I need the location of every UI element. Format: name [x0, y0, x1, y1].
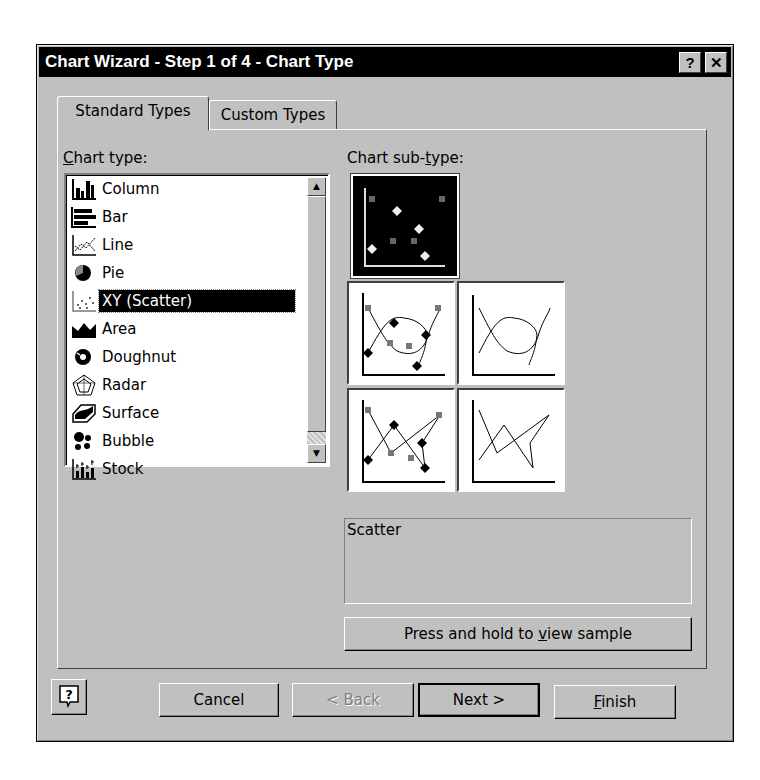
list-item-area[interactable]: Area [69, 315, 303, 343]
doughnut-chart-icon [69, 345, 99, 369]
list-item-bar[interactable]: Bar [69, 203, 303, 231]
scroll-down-button[interactable]: ▼ [307, 444, 326, 463]
list-item-column[interactable]: Column [69, 175, 303, 203]
tab-label: Custom Types [221, 106, 326, 124]
next-button[interactable]: Next > [418, 683, 540, 717]
bar-chart-icon [69, 205, 99, 229]
lines-icon [459, 390, 563, 490]
list-item-bubble[interactable]: Bubble [69, 427, 303, 455]
stock-chart-icon [69, 457, 99, 481]
subtype-smoothed-lines-markers[interactable] [347, 281, 455, 385]
radar-chart-icon [69, 373, 99, 397]
chart-wizard-dialog: Chart Wizard - Step 1 of 4 - Chart Type … [36, 44, 734, 742]
help-title-button[interactable]: ? [679, 52, 701, 73]
description-text: Scatter [347, 521, 401, 539]
svg-text:?: ? [65, 687, 73, 702]
list-item-surface[interactable]: Surface [69, 399, 303, 427]
line-chart-icon [69, 233, 99, 257]
office-assistant-help-button[interactable]: ? [51, 679, 87, 715]
lines-markers-icon [349, 390, 453, 490]
list-item-doughnut[interactable]: Doughnut [69, 343, 303, 371]
tab-label: Standard Types [75, 102, 190, 120]
close-icon: ✕ [710, 54, 723, 71]
list-item-pie[interactable]: Pie [69, 259, 303, 287]
column-chart-icon [69, 177, 99, 201]
help-bubble-icon: ? [58, 684, 80, 708]
view-sample-button[interactable]: Press and hold to view sample [344, 617, 692, 651]
subtype-lines-markers[interactable] [347, 388, 455, 492]
list-item-stock[interactable]: Stock [69, 455, 303, 483]
scroll-thumb[interactable] [307, 196, 326, 432]
title-bar[interactable]: Chart Wizard - Step 1 of 4 - Chart Type … [39, 47, 731, 77]
back-button[interactable]: < Back [292, 683, 414, 717]
listbox-scrollbar[interactable]: ▲ ▼ [307, 177, 326, 463]
chart-type-listbox[interactable]: Column Bar Line Pie XY (Scatter) [64, 173, 330, 467]
triangle-up-icon: ▲ [313, 181, 320, 191]
chart-subtype-label: Chart sub-type: [347, 149, 464, 167]
question-icon: ? [685, 54, 694, 71]
triangle-down-icon: ▼ [313, 448, 320, 458]
subtype-scatter-markers-only[interactable] [351, 174, 459, 278]
cancel-button[interactable]: Cancel [159, 683, 279, 717]
surface-chart-icon [69, 401, 99, 425]
finish-button[interactable]: Finish [554, 685, 676, 719]
smoothed-lines-markers-icon [349, 283, 453, 383]
window-title: Chart Wizard - Step 1 of 4 - Chart Type [45, 52, 353, 71]
subtype-lines-no-markers[interactable] [457, 388, 565, 492]
smoothed-lines-icon [459, 283, 563, 383]
tab-custom-types[interactable]: Custom Types [209, 100, 337, 130]
list-item-xy-scatter[interactable]: XY (Scatter) [69, 287, 303, 315]
area-chart-icon [69, 317, 99, 341]
list-item-radar[interactable]: Radar [69, 371, 303, 399]
pie-chart-icon [69, 261, 99, 285]
chart-type-label: Chart type: [63, 149, 148, 167]
bubble-chart-icon [69, 429, 99, 453]
scroll-up-button[interactable]: ▲ [307, 177, 326, 196]
scatter-markers-icon [353, 176, 457, 276]
scatter-chart-icon [69, 289, 99, 313]
list-item-line[interactable]: Line [69, 231, 303, 259]
subtype-description: Scatter [344, 518, 692, 604]
close-button[interactable]: ✕ [705, 52, 727, 73]
tab-standard-types[interactable]: Standard Types [57, 96, 209, 130]
subtype-smoothed-lines-no-markers[interactable] [457, 281, 565, 385]
